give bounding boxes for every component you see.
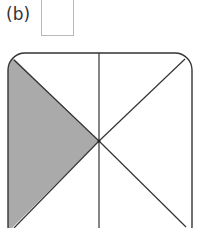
diagonal-line-top-right [99,59,185,141]
center-point [98,140,101,143]
shaded-left-triangle [0,45,99,228]
divided-rounded-square-figure [0,0,199,228]
diagonal-line-bottom-right [99,141,186,227]
